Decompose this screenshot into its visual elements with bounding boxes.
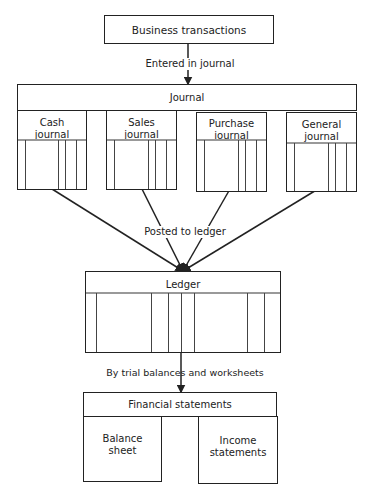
business-transactions-label: Business transactions: [105, 24, 273, 36]
general-journal-label: Generaljournal: [287, 119, 356, 143]
purchase-l1: Purchase: [209, 118, 254, 129]
income-l2: statements: [210, 447, 267, 458]
sales-journal-label: Salesjournal: [107, 117, 176, 141]
journal-box: Journal: [17, 84, 357, 111]
financial-statements-box: Financial statements: [83, 392, 277, 417]
cash-journal-box: Cashjournal: [17, 110, 87, 190]
entered-in-journal-label: Entered in journal: [140, 58, 240, 70]
sales-journal-box: Salesjournal: [106, 110, 177, 190]
ledger-box: Ledger: [85, 271, 281, 353]
general-journal-box: Generaljournal: [286, 112, 357, 192]
balance-sheet-box: Balancesheet: [83, 416, 162, 482]
balance-sheet-label: Balancesheet: [84, 433, 161, 457]
business-transactions-box: Business transactions: [104, 15, 274, 44]
journal-title: Journal: [18, 92, 356, 104]
sales-l1: Sales: [128, 117, 155, 128]
income-l1: Income: [220, 435, 257, 446]
posted-to-ledger-label: Posted to ledger: [140, 226, 230, 238]
cash-journal-label: Cashjournal: [18, 117, 86, 141]
connectors: [0, 0, 368, 497]
balance-l2: sheet: [109, 445, 137, 456]
income-statements-label: Incomestatements: [199, 435, 277, 459]
balance-l1: Balance: [103, 433, 143, 444]
financial-statements-title: Financial statements: [84, 399, 276, 411]
ledger-title: Ledger: [86, 279, 280, 291]
trial-balances-label: By trial balances and worksheets: [100, 367, 270, 379]
cash-l1: Cash: [40, 117, 65, 128]
general-l1: General: [302, 119, 341, 130]
general-l2: journal: [304, 131, 338, 142]
purchase-journal-box: Purchasejournal: [196, 112, 267, 192]
income-statements-box: Incomestatements: [198, 416, 278, 484]
